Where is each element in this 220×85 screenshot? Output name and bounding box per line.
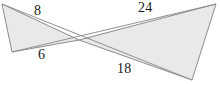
figure-canvas: [0, 0, 220, 85]
geometry-figure: 8 6 24 18: [0, 0, 220, 85]
side-label-18: 18: [117, 62, 132, 76]
side-label-8: 8: [34, 4, 41, 18]
side-label-24: 24: [138, 1, 153, 15]
right-triangle: [79, 4, 216, 80]
side-label-6: 6: [38, 48, 45, 62]
